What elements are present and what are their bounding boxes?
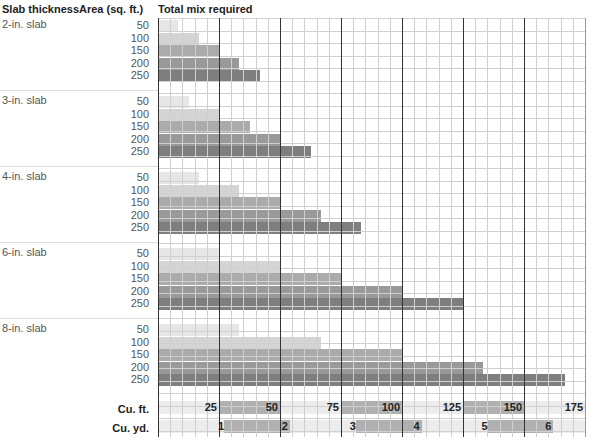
area-label: 150 [109,120,149,132]
grid-minor-line [561,18,562,437]
area-label: 200 [109,285,149,297]
grid-minor-line [487,18,488,437]
grid-hline [158,381,586,382]
area-label: 250 [109,373,149,385]
grid-hline [158,31,586,32]
grid-hline [158,193,586,194]
grid-minor-line [451,18,452,437]
area-label: 50 [109,247,149,259]
group-separator [0,166,158,167]
grid-minor-line [536,18,537,437]
area-label: 100 [109,108,149,120]
area-label: 250 [109,69,149,81]
cuyd-tick: 3 [350,420,370,432]
cuft-tick: 125 [421,401,461,413]
area-label: 250 [109,145,149,157]
grid-hline [158,243,586,244]
grid-hline [158,356,586,357]
grid-minor-line [378,18,379,437]
grid-minor-line [170,18,171,437]
cuft-tick: 75 [299,401,339,413]
bar-6-in-slab-250 [158,298,463,310]
group-label: 4-in. slab [2,170,47,182]
grid-hline [158,331,586,332]
grid-hline [158,81,586,82]
group-separator [0,90,158,91]
group-label: 6-in. slab [2,246,47,258]
grid-hline [158,18,586,19]
cuyd-tick: 2 [268,420,288,432]
bar-6-in-slab-50 [158,248,219,260]
grid-minor-line [426,18,427,437]
grid-hline [158,156,586,157]
grid-hline [158,268,586,269]
grid-major-line [402,18,403,437]
area-label: 100 [109,184,149,196]
grid-major-line [463,18,464,437]
group-label: 3-in. slab [2,94,47,106]
grid-hline [158,68,586,69]
grid-minor-line [548,18,549,437]
grid-hline [158,43,586,44]
grid-hline [158,118,586,119]
cuft-tick: 50 [238,401,278,413]
grid-minor-line [500,18,501,437]
group-separator [0,242,158,243]
grid-hline [158,318,586,319]
cuyd-tick: 4 [400,420,420,432]
cuft-tick: 25 [177,401,217,413]
grid-hline [158,293,586,294]
chart-plot-area: 255075100125150175123456 [158,18,586,437]
bar-4-in-slab-250 [158,222,361,234]
grid-major-line [341,18,342,437]
area-label: 150 [109,196,149,208]
area-label: 100 [109,32,149,44]
grid-hline [158,181,586,182]
grid-major-line [158,18,159,437]
grid-hline [158,281,586,282]
grid-minor-line [182,18,183,437]
grid-minor-line [329,18,330,437]
cuyd-tick: 1 [218,420,238,432]
grid-hline [158,393,586,394]
grid-minor-line [512,18,513,437]
area-label: 150 [109,272,149,284]
area-label: 200 [109,209,149,221]
area-label: 250 [109,297,149,309]
grid-minor-line [195,18,196,437]
grid-minor-line [304,18,305,437]
grid-minor-line [207,18,208,437]
grid-minor-line [439,18,440,437]
bar-6-in-slab-150 [158,273,341,285]
grid-minor-line [231,18,232,437]
grid-minor-line [268,18,269,437]
grid-hline [158,168,586,169]
grid-major-line [524,18,525,437]
cuyd-tick: 5 [481,420,501,432]
cuyd-axis-label: Cu. yd. [89,422,149,434]
grid-hline [158,206,586,207]
grid-hline [158,368,586,369]
grid-hline [158,106,586,107]
grid-minor-line [243,18,244,437]
grid-hline [158,306,586,307]
grid-minor-line [292,18,293,437]
area-label: 150 [109,348,149,360]
group-label: 8-in. slab [2,322,47,334]
grid-minor-line [390,18,391,437]
grid-major-line [219,18,220,437]
grid-hline [158,143,586,144]
grid-minor-line [573,18,574,437]
grid-hline [158,418,586,419]
grid-hline [158,256,586,257]
cuft-tick: 100 [360,401,400,413]
area-label: 50 [109,323,149,335]
grid-minor-line [317,18,318,437]
grid-minor-line [256,18,257,437]
header-slab-thickness: Slab thickness [2,3,79,15]
area-label: 100 [109,336,149,348]
area-label: 100 [109,260,149,272]
grid-hline [158,56,586,57]
area-label: 200 [109,57,149,69]
cuft-tick: 175 [543,401,583,413]
